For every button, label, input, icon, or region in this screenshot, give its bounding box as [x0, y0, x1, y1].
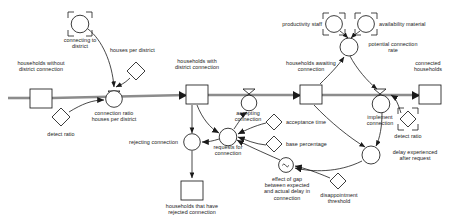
flow-accepting-connection[interactable]: [241, 95, 257, 111]
label-rejecting-connection: rejecting connection: [106, 139, 178, 145]
label-disappointment-threshold: disappointment threshold: [310, 192, 368, 204]
connector-with-to-requests: [197, 105, 219, 133]
label-connection-ratio-houses-per-district: connection ratio houses per district: [78, 110, 150, 122]
label-detect-ratio-left: detect ratio: [37, 131, 85, 137]
stock-households-that-have-rejected-connection[interactable]: [181, 181, 203, 200]
shadow-connecting-to-district[interactable]: [71, 15, 89, 33]
connector-houses-per-district-to-valve: [116, 78, 130, 87]
aux-potential-connection-rate[interactable]: [340, 38, 358, 56]
constant-detect-ratio-left[interactable]: [52, 108, 70, 126]
connector-requests-to-rejecting: [202, 139, 219, 142]
connector-detect-ratio-right-to-implement: [391, 95, 401, 113]
flow-rejecting-connection[interactable]: [184, 134, 201, 151]
stock-connected-households[interactable]: [419, 85, 441, 104]
flow-implement-connection[interactable]: [372, 95, 390, 113]
label-potential-connection-rate: potential connection rate: [360, 41, 426, 53]
constant-disappointment-threshold[interactable]: [330, 173, 346, 189]
label-base-percentage: base percentage: [286, 141, 348, 147]
label-households-with-district-connection: households with district connection: [159, 58, 235, 70]
label-connecting-to-district: connecting to district: [53, 37, 107, 49]
connector-acceptance-time-to-requests: [238, 123, 266, 134]
label-detect-ratio-right: detect ratio: [384, 133, 432, 139]
label-houses-per-district: houses per district: [110, 47, 172, 53]
shadow-variable-shapes: [71, 15, 374, 33]
aux-delay-experienced-after-request[interactable]: [362, 146, 380, 164]
aux-effect-of-gap-lookup[interactable]: [279, 158, 294, 173]
label-requests-for-connection: requests for connection: [202, 144, 254, 156]
flow-pipe-group: [8, 95, 419, 98]
stock-households-awaiting-connection[interactable]: [300, 85, 322, 104]
label-acceptance-time: acceptance time: [286, 119, 348, 125]
label-delay-experienced-after-request: delay experienced after request: [382, 149, 448, 161]
stock-households-with-district-connection[interactable]: [186, 85, 208, 104]
connector-delay-to-effect: [295, 161, 362, 171]
shadow-productivity-staff[interactable]: [326, 16, 343, 33]
shadow-availability-material[interactable]: [358, 16, 375, 33]
stock-households-without-district-connection[interactable]: [30, 89, 52, 108]
flow-connection-ratio-houses-per-district[interactable]: [106, 91, 123, 108]
label-implement-connection: implement connection: [355, 114, 405, 126]
system-dynamics-diagram: households without district connection h…: [0, 0, 457, 224]
label-connected-households: connected households: [400, 60, 456, 72]
label-households-without-district-connection: households without district connection: [3, 60, 79, 72]
connector-availability-to-potential: [351, 31, 360, 38]
connector-productivity-to-potential: [340, 31, 348, 38]
label-availability-material: availability material: [379, 21, 449, 27]
constant-base-percentage[interactable]: [266, 136, 282, 152]
label-households-awaiting-connection: households awaiting connection: [272, 60, 350, 72]
label-households-that-have-rejected-connection: households that have rejected connection: [151, 203, 233, 215]
label-accepting-connection: accepting connection: [223, 110, 273, 122]
constant-houses-per-district[interactable]: [127, 62, 145, 80]
label-productivity-staff: productivity staff: [262, 21, 322, 27]
connector-potential-to-implement: [350, 56, 377, 89]
